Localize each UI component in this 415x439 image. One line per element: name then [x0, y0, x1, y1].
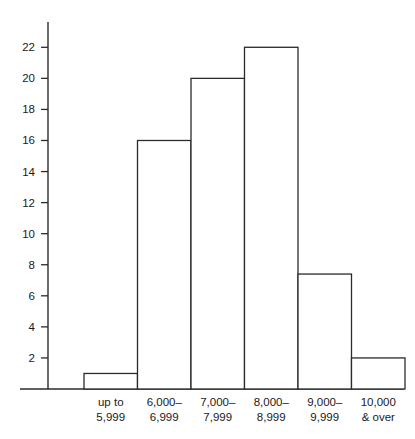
y-tick-label: 6 — [29, 290, 35, 302]
y-tick-label: 12 — [22, 197, 35, 209]
y-tick-label: 2 — [29, 352, 35, 364]
x-label-group: up to5,9996,000–6,9997,000–7,9998,000–8,… — [96, 396, 395, 423]
bars-group — [84, 47, 405, 389]
histogram-bar — [191, 78, 245, 389]
histogram-bar — [352, 358, 406, 389]
y-tick-label: 10 — [22, 228, 35, 240]
histogram-bar — [245, 47, 299, 389]
y-tick-label: 20 — [22, 72, 35, 84]
x-category-label: 9,000–9,999 — [307, 396, 343, 423]
y-tick-label: 18 — [22, 103, 35, 115]
histogram-bar — [298, 274, 352, 389]
x-category-label: up to5,999 — [96, 396, 125, 423]
y-tick-label: 8 — [29, 259, 35, 271]
histogram-bar — [138, 140, 192, 389]
y-tick-label: 22 — [22, 41, 35, 53]
chart-canvas: 246810121416182022up to5,9996,000–6,9997… — [0, 0, 415, 439]
y-tick-label: 14 — [22, 166, 35, 178]
x-category-label: 8,000–8,999 — [254, 396, 290, 423]
x-category-label: 7,000–7,999 — [200, 396, 236, 423]
histogram-chart: 246810121416182022up to5,9996,000–6,9997… — [0, 0, 415, 439]
y-tick-label: 4 — [29, 321, 36, 333]
x-category-label: 10,000& over — [361, 396, 396, 423]
y-tick-group: 246810121416182022 — [22, 41, 48, 364]
y-tick-label: 16 — [22, 134, 35, 146]
histogram-bar — [84, 373, 138, 389]
x-category-label: 6,000–6,999 — [147, 396, 183, 423]
